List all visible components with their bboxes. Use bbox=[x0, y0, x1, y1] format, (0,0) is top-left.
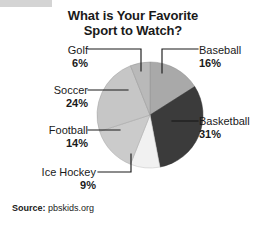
pie-label-football-value: 14% bbox=[12, 137, 88, 150]
pie-slices bbox=[97, 62, 203, 168]
source-label: Source: bbox=[12, 203, 46, 213]
pie-label-football-name: Football bbox=[12, 124, 88, 137]
source-attribution: Source: pbskids.org bbox=[12, 203, 94, 214]
pie-label-ice-hockey-value: 9% bbox=[12, 179, 96, 192]
pie-label-basketball: Basketball 31% bbox=[199, 115, 265, 140]
pie-label-soccer-value: 24% bbox=[20, 97, 88, 110]
pie-label-ice-hockey: Ice Hockey 9% bbox=[12, 166, 96, 191]
pie-label-golf-value: 6% bbox=[42, 57, 88, 70]
pie-label-baseball-name: Baseball bbox=[199, 44, 265, 57]
pie-label-soccer-name: Soccer bbox=[20, 84, 88, 97]
pie-label-baseball-value: 16% bbox=[199, 57, 265, 70]
pie-label-golf: Golf 6% bbox=[42, 44, 88, 69]
pie-label-football: Football 14% bbox=[12, 124, 88, 149]
pie-label-baseball: Baseball 16% bbox=[199, 44, 265, 69]
source-value: pbskids.org bbox=[48, 203, 94, 213]
pie-label-ice-hockey-name: Ice Hockey bbox=[12, 166, 96, 179]
pie-label-basketball-name: Basketball bbox=[199, 115, 265, 128]
pie-label-golf-name: Golf bbox=[42, 44, 88, 57]
pie-label-basketball-value: 31% bbox=[199, 128, 265, 141]
pie-label-soccer: Soccer 24% bbox=[20, 84, 88, 109]
